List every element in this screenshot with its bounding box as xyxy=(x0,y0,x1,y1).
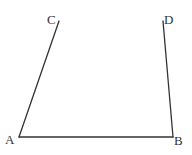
point-label-d: D xyxy=(164,12,173,27)
geometry-diagram: A B C D xyxy=(0,0,192,155)
point-label-a: A xyxy=(5,132,15,147)
point-label-c: C xyxy=(47,12,56,27)
segment-ac xyxy=(19,21,59,137)
point-label-b: B xyxy=(174,133,183,148)
segment-bd xyxy=(163,21,173,137)
